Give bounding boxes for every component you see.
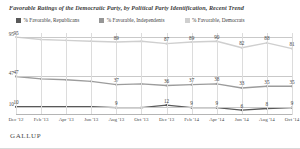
data-point-label: 9 [291,100,294,106]
gridline-vertical [66,33,67,115]
data-point-label: 37 [189,77,194,83]
y-axis-tick-label: 95 [2,31,14,37]
x-axis-tick-label: Dec '13 [159,117,174,122]
data-point-label: 81 [289,41,294,47]
legend-label: % Favorable, Independents [107,17,165,23]
data-point-label: 35 [289,79,294,85]
plot-area: 9547109589878990828881473736373833353510… [16,33,292,115]
series-layer [16,33,292,115]
data-point-label: 6 [241,103,244,109]
data-point-label: 12 [164,98,169,104]
gridline-vertical [41,33,42,115]
legend-swatch-icon [99,18,104,23]
x-axis-tick-label: Apr '14 [209,117,224,122]
data-point-label: 38 [214,76,219,82]
x-axis-line [16,114,292,115]
data-point-label: 35 [264,79,269,85]
x-axis-tick-label: Oct '14 [285,117,299,122]
gallup-logo: GALLUP [10,132,41,140]
x-axis-tick-label: Feb '14 [184,117,199,122]
legend-label: % Favorable, Republicans [24,17,80,23]
legend-item: % Favorable, Democrats [185,17,245,23]
x-axis-tick-label: Feb '13 [34,117,49,122]
data-point-label: 89 [114,35,119,41]
legend-swatch-icon [16,18,21,23]
data-point-label: 87 [164,36,169,42]
gridline-horizontal [16,76,292,77]
y-axis-tick-label: 47 [2,70,14,76]
x-axis-tick-label: Apr '13 [59,117,74,122]
x-axis-labels: Dec '12Feb '13Apr '13Jun '13Aug '13Oct '… [16,117,292,127]
data-point-label: 8 [266,101,269,107]
data-point-label: 10 [13,99,18,105]
series-line [16,37,292,48]
series-line [16,76,292,87]
data-point-label: 33 [239,80,244,86]
x-axis-tick-label: Jun '13 [84,117,98,122]
y-axis-tick-label: 10 [2,101,14,107]
x-axis-tick-label: Aug '13 [108,117,124,122]
gridline-vertical [91,33,92,115]
data-point-label: 88 [264,35,269,41]
x-axis-tick-label: Jun '14 [235,117,249,122]
x-axis-tick-label: Aug '14 [259,117,275,122]
chart-title: Favorable Ratings of the Democratic Part… [9,4,295,12]
legend-item: % Favorable, Republicans [16,17,79,23]
data-point-label: 9 [215,100,218,106]
data-point-label: 89 [189,35,194,41]
data-point-label: 9 [190,100,193,106]
gridline-vertical [141,33,142,115]
gridline-horizontal [16,107,292,108]
data-point-label: 90 [214,34,219,40]
gridline-horizontal [16,37,292,38]
x-axis-tick-label: Dec '12 [8,117,23,122]
data-point-label: 36 [164,78,169,84]
chart-legend: % Favorable, Republicans% Favorable, Ind… [16,17,245,23]
x-axis-tick-label: Oct '13 [134,117,148,122]
legend-item: % Favorable, Independents [99,17,164,23]
data-point-label: 9 [115,100,118,106]
legend-swatch-icon [185,18,190,23]
chart-page: Favorable Ratings of the Democratic Part… [0,0,300,149]
data-point-label: 95 [13,30,18,36]
data-point-label: 37 [114,77,119,83]
legend-label: % Favorable, Democrats [192,17,245,23]
data-point-label: 47 [13,69,18,75]
data-point-label: 82 [239,40,244,46]
